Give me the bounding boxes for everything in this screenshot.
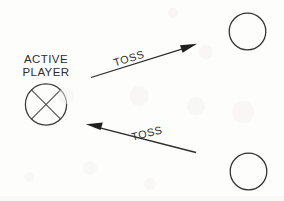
toss-arrow-lower-head (86, 122, 103, 130)
toss-arrow-upper (91, 44, 197, 78)
active-player-label-line1: ACTIVE (21, 53, 71, 66)
toss-arrow-upper-head (180, 44, 197, 53)
receiver-circle-top (229, 13, 266, 50)
receiver-circle-bottom (230, 153, 267, 190)
toss-diagram-graphics (0, 0, 284, 201)
active-player-label-line2: PLAYER (21, 66, 71, 79)
active-player-marker (25, 84, 66, 125)
diagram-canvas: ACTIVE PLAYER TOSS TOSS (0, 0, 284, 201)
active-player-label: ACTIVE PLAYER (21, 53, 71, 78)
